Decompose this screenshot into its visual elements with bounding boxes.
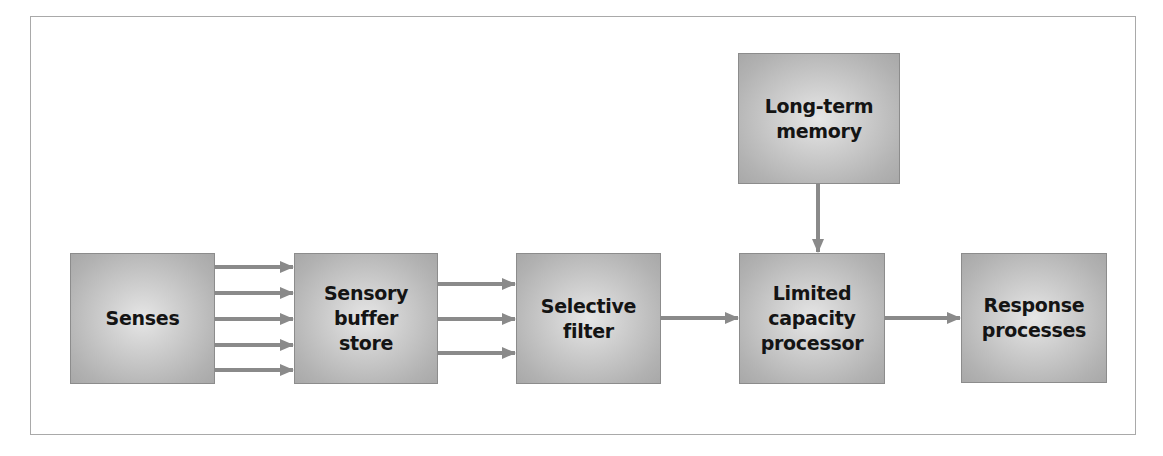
node-long-term-memory-label: Long-term memory [765,94,874,144]
arrows-senses-to-buffer [215,267,293,370]
node-response-processes-label: Response processes [982,293,1086,343]
node-limited-capacity-processor-label: Limited capacity processor [761,281,864,356]
arrows-layer [0,0,1163,456]
node-senses-label: Senses [106,306,180,331]
node-long-term-memory: Long-term memory [738,53,900,184]
node-response-processes: Response processes [961,253,1107,383]
node-limited-capacity-processor: Limited capacity processor [739,253,885,384]
node-selective-filter: Selective filter [516,253,661,384]
node-sensory-buffer-store-label: Sensory buffer store [324,281,408,356]
node-sensory-buffer-store: Sensory buffer store [294,253,438,384]
node-selective-filter-label: Selective filter [541,294,636,344]
arrows-buffer-to-filter [438,284,515,353]
node-senses: Senses [70,253,215,384]
